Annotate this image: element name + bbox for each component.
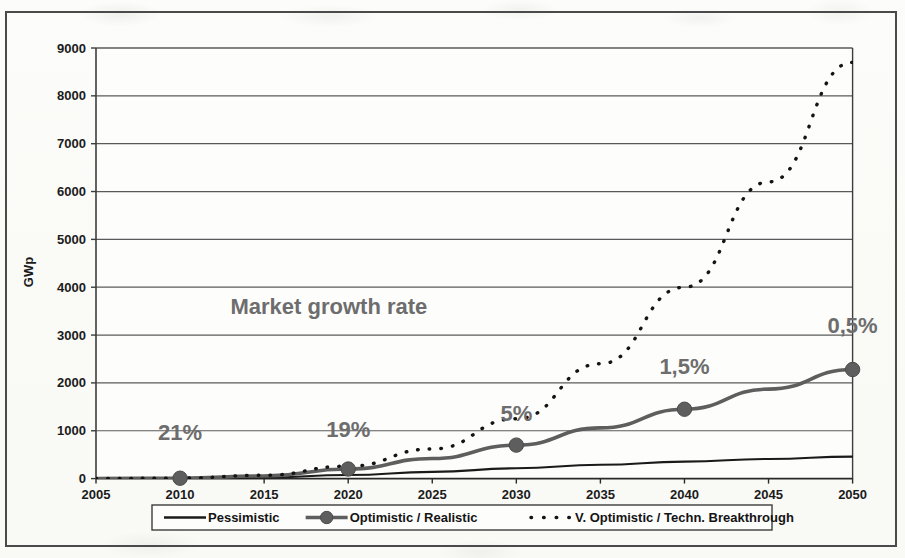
legend-label-1: Optimistic / Realistic [350, 510, 478, 525]
y-tick-label-4000: 4000 [57, 280, 86, 295]
x-tick-label-2035: 2035 [586, 487, 615, 502]
y-tick-label-1000: 1000 [57, 423, 86, 438]
growth-rate-annotation-2050: 0,5% [828, 313, 878, 338]
y-axis-ticks: 0100020003000400050006000700080009000 [57, 41, 96, 487]
market-growth-rate-callout: Market growth rate [231, 294, 428, 319]
plot-area-background [96, 48, 853, 479]
growth-rate-annotation-2040: 1,5% [659, 354, 709, 379]
x-tick-label-2030: 2030 [502, 487, 531, 502]
x-tick-label-2015: 2015 [250, 487, 279, 502]
y-tick-label-0: 0 [79, 471, 86, 486]
x-tick-label-2025: 2025 [418, 487, 447, 502]
growth-rate-annotation-2010: 21% [158, 420, 202, 445]
y-tick-label-8000: 8000 [57, 88, 86, 103]
market-growth-chart: 0100020003000400050006000700080009000 20… [0, 0, 905, 558]
x-tick-label-2010: 2010 [166, 487, 195, 502]
y-tick-label-9000: 9000 [57, 41, 86, 56]
y-axis-title: GWp [21, 257, 36, 287]
chart-page: 0100020003000400050006000700080009000 20… [0, 0, 905, 558]
data-marker-2040 [677, 402, 691, 416]
data-marker-2050 [845, 362, 859, 376]
y-tick-label-7000: 7000 [57, 136, 86, 151]
data-marker-2010 [173, 471, 187, 485]
data-marker-2030 [509, 438, 523, 452]
y-tick-label-3000: 3000 [57, 328, 86, 343]
x-tick-label-2040: 2040 [670, 487, 699, 502]
y-tick-label-5000: 5000 [57, 232, 86, 247]
x-axis-ticks: 2005201020152020202520302035204020452050 [82, 479, 868, 502]
y-tick-label-6000: 6000 [57, 184, 86, 199]
legend-label-2: V. Optimistic / Techn. Breakthrough [575, 510, 794, 525]
growth-rate-annotation-2030: 5% [500, 401, 532, 426]
y-tick-label-2000: 2000 [57, 375, 86, 390]
x-tick-label-2045: 2045 [754, 487, 783, 502]
x-tick-label-2020: 2020 [334, 487, 363, 502]
legend-label-0: Pessimistic [208, 510, 280, 525]
chart-legend: PessimisticOptimistic / RealisticV. Opti… [152, 505, 794, 530]
x-tick-label-2005: 2005 [82, 487, 111, 502]
x-tick-label-2050: 2050 [838, 487, 867, 502]
data-marker-2020 [341, 462, 355, 476]
growth-rate-annotation-2020: 19% [326, 417, 370, 442]
legend-swatch-marker-1 [320, 511, 332, 523]
